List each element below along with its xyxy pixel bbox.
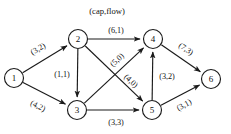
edge-label-1-3: (4,2) <box>29 99 47 114</box>
node-6: 6 <box>202 70 221 89</box>
node-5: 5 <box>143 101 162 120</box>
edge-label-4-6: (7,3) <box>177 41 195 57</box>
node-label-1: 1 <box>12 73 17 83</box>
node-label-3: 3 <box>75 105 80 115</box>
edge-1-to-3 <box>23 83 65 105</box>
edge-label-5-4: (3,2) <box>159 72 175 81</box>
edge-label-3-5: (3,3) <box>108 118 124 127</box>
edge-2-to-3 <box>77 49 78 97</box>
edge-label-2-4: (6,1) <box>108 26 124 35</box>
graph-canvas: 123456 (3,2)(4,2)(1,1)(6,1)(4,0)(5,0)(3,… <box>0 0 231 134</box>
edge-label-1-2: (3,2) <box>29 41 47 57</box>
node-3: 3 <box>68 101 87 120</box>
node-1: 1 <box>5 69 24 88</box>
edge-5-to-4 <box>152 52 153 100</box>
node-label-2: 2 <box>76 34 81 44</box>
node-label-4: 4 <box>151 34 156 44</box>
flow-network-figure: 123456 (3,2)(4,2)(1,1)(6,1)(4,0)(5,0)(3,… <box>0 0 231 134</box>
edge-label-5-6: (3,1) <box>175 97 193 113</box>
edge-2-to-5 <box>85 46 142 101</box>
edge-label-2-3: (1,1) <box>54 70 70 79</box>
caption-cap-flow: (cap,flow) <box>89 6 125 16</box>
node-label-5: 5 <box>150 105 155 115</box>
node-2: 2 <box>69 30 88 49</box>
edge-labels-layer: (3,2)(4,2)(1,1)(6,1)(4,0)(5,0)(3,3)(3,2)… <box>29 26 195 127</box>
node-label-6: 6 <box>209 74 214 84</box>
edge-label-2-5: (4,0) <box>122 72 140 89</box>
node-4: 4 <box>144 30 163 49</box>
